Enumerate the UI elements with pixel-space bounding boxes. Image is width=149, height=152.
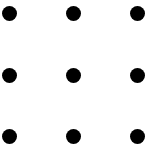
grid-dot-r0-c2 bbox=[130, 6, 145, 21]
grid-dot-r2-c0 bbox=[2, 129, 17, 144]
grid-dot-r1-c1 bbox=[66, 68, 81, 83]
grid-dot-r1-c2 bbox=[130, 68, 145, 83]
grid-dot-r2-c1 bbox=[66, 129, 81, 144]
grid-dot-r0-c0 bbox=[2, 6, 17, 21]
grid-dot-r1-c0 bbox=[2, 68, 17, 83]
grid-dot-r0-c1 bbox=[66, 6, 81, 21]
grid-dot-r2-c2 bbox=[130, 129, 145, 144]
